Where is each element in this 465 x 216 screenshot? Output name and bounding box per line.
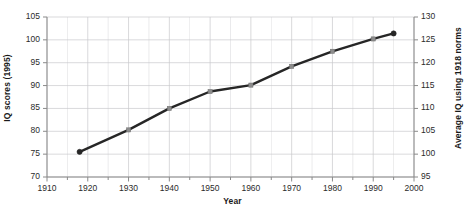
chart-figure: IQ scores (1995) Average IQ using 1918 n…: [0, 0, 465, 216]
data-point-marker: [330, 49, 334, 53]
y-axis-left-tick-label: 105: [14, 11, 40, 21]
data-point-marker: [77, 149, 82, 154]
y-axis-right-tick-label: 95: [421, 171, 447, 181]
data-markers-layer: [77, 31, 396, 155]
y-axis-right-tick-label: 110: [421, 102, 447, 112]
x-axis-tick-label: 1980: [312, 183, 352, 193]
data-point-marker: [290, 64, 294, 68]
y-axis-right-tick-label: 105: [421, 125, 447, 135]
y-axis-right-tick-label: 120: [421, 57, 447, 67]
x-axis-tick-label: 1970: [272, 183, 312, 193]
x-axis-tick-label: 2000: [394, 183, 434, 193]
y-axis-right-tick-label: 130: [421, 11, 447, 21]
data-point-marker: [391, 31, 396, 36]
y-axis-left-tick-label: 95: [14, 57, 40, 67]
y-axis-left-tick-label: 70: [14, 171, 40, 181]
data-point-marker: [371, 37, 375, 41]
y-axis-right-tick-label: 100: [421, 148, 447, 158]
data-point-marker: [126, 128, 130, 132]
x-axis-tick-label: 1960: [231, 183, 271, 193]
x-axis-tick-label: 1940: [149, 183, 189, 193]
y-axis-right-tick-label: 115: [421, 80, 447, 90]
data-point-marker: [208, 89, 212, 93]
x-axis-tick-label: 1920: [68, 183, 108, 193]
y-axis-left-tick-label: 90: [14, 80, 40, 90]
data-series-layer: [80, 33, 394, 151]
y-axis-right-tick-label: 125: [421, 34, 447, 44]
y-axis-left-tick-label: 85: [14, 102, 40, 112]
x-axis-tick-label: 1990: [353, 183, 393, 193]
x-axis-tick-label: 1930: [109, 183, 149, 193]
y-axis-left-tick-label: 100: [14, 34, 40, 44]
y-axis-left-tick-label: 75: [14, 148, 40, 158]
y-axis-left-tick-label: 80: [14, 125, 40, 135]
data-point-marker: [249, 83, 253, 87]
grid-layer: [47, 17, 414, 177]
data-line: [80, 33, 394, 151]
data-point-marker: [167, 106, 171, 110]
x-axis-tick-label: 1950: [190, 183, 230, 193]
x-axis-tick-label: 1910: [27, 183, 67, 193]
